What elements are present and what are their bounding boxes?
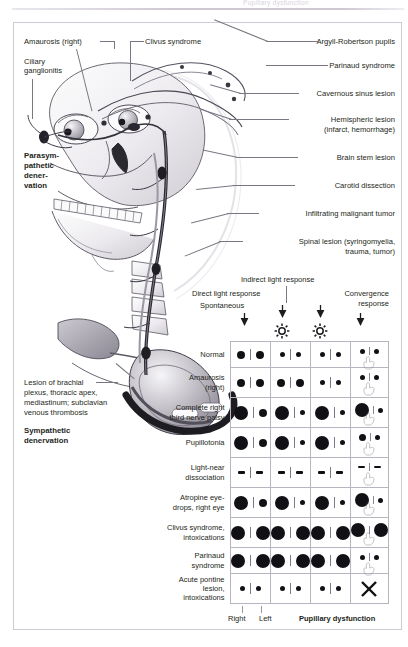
- table-cell: [230, 488, 270, 518]
- pupil-marker: [234, 496, 248, 510]
- row-label-line: (right): [166, 383, 225, 392]
- table-row: Pupillotonia: [166, 428, 388, 458]
- pupil-marker: [378, 498, 383, 503]
- cell-divider: [290, 349, 291, 360]
- label-parasympathetic-l1: Parasym-: [24, 151, 59, 160]
- table-cell: [350, 342, 388, 368]
- cell-divider: [253, 407, 254, 418]
- table-cell: [310, 518, 350, 548]
- pointing-finger-icon: [363, 472, 375, 486]
- cell-divider: [250, 583, 251, 594]
- cell-divider: [290, 527, 291, 538]
- cross-no-response-icon: [360, 580, 378, 598]
- footer-right-label: Right: [228, 614, 246, 623]
- table-cell: [270, 488, 310, 518]
- leader-amaurosis-v: [114, 41, 115, 49]
- cell-divider: [290, 555, 291, 566]
- cell-divider: [250, 349, 251, 360]
- pupil-marker: [315, 406, 329, 420]
- table-row: Light-neardissociation: [166, 458, 388, 488]
- pupil-marker: [320, 586, 325, 591]
- pupil-marker: [275, 406, 289, 420]
- pupil-marker: [336, 554, 350, 568]
- table-cell: [270, 368, 310, 398]
- pupil-marker: [275, 496, 289, 510]
- pupil-marker: [336, 586, 341, 591]
- table-cell: [230, 548, 270, 574]
- pupil-marker: [374, 555, 379, 560]
- pupil-marker: [378, 408, 383, 413]
- label-convergence-l1: Convergence: [314, 289, 389, 298]
- convergence-cell: [351, 368, 388, 397]
- pupil-pair: [231, 518, 270, 547]
- table-row: Parinaud syndrome: [166, 548, 388, 574]
- pupil-marker: [256, 526, 270, 540]
- pupil-pair: [271, 518, 310, 547]
- convergence-cell: [351, 428, 388, 457]
- cell-divider: [250, 377, 251, 388]
- pupil-pair: [271, 368, 310, 397]
- pupil-marker: [296, 586, 301, 591]
- cell-divider: [330, 527, 331, 538]
- cell-divider: [250, 467, 251, 478]
- pupil-marker: [234, 406, 248, 420]
- cell-divider: [369, 347, 370, 355]
- footer-tick-right: [242, 606, 243, 613]
- row-label: Acute pontinelesion, intoxications: [166, 574, 230, 604]
- row-label: Complete rightthird nerve palsy: [166, 398, 230, 428]
- leader-brachial: [96, 382, 118, 383]
- label-direct-light-response: Direct light response: [192, 289, 260, 298]
- pupil-marker: [256, 554, 270, 568]
- pupillary-dysfunction-table: NormalAmaurosis(right)Complete rightthir…: [166, 341, 389, 604]
- table-cell: [230, 428, 270, 458]
- pupil-pair: [231, 488, 270, 517]
- pupil-dash: [336, 471, 343, 474]
- pupil-marker: [336, 352, 341, 357]
- pupil-pair: [271, 428, 310, 457]
- pupil-pair: [271, 458, 310, 487]
- leader-clivus: [130, 41, 144, 42]
- table-cell: [310, 488, 350, 518]
- row-label-line: Acute pontine: [166, 575, 225, 584]
- pupil-marker: [275, 436, 289, 450]
- pupil-marker: [259, 409, 267, 417]
- row-label-line: Complete right: [166, 403, 225, 412]
- pupil-marker: [271, 526, 285, 540]
- pupil-pair: [231, 342, 270, 367]
- pupil-marker: [359, 434, 366, 441]
- label-ciliary-ganglionitis-l1: Ciliary: [24, 57, 45, 66]
- cell-divider: [250, 555, 251, 566]
- pupil-marker: [231, 526, 245, 540]
- arrow-down-icon: [316, 305, 325, 319]
- leader-tumor: [227, 213, 259, 214]
- convergence-cell: [351, 398, 388, 427]
- cell-divider: [330, 555, 331, 566]
- cell-divider: [330, 583, 331, 594]
- pupil-marker: [374, 375, 379, 380]
- pupil-pair: [311, 518, 350, 547]
- pupil-marker: [259, 439, 267, 447]
- convergence-cell: [351, 488, 388, 517]
- table-cell: [310, 574, 350, 604]
- pupil-marker: [300, 410, 305, 415]
- row-label-line: dissociation: [166, 473, 225, 482]
- leader-indirect: [286, 286, 287, 303]
- row-label: Pupillotonia: [166, 428, 230, 458]
- table-cell: [350, 428, 388, 458]
- pupil-pair: [231, 368, 270, 397]
- footer-left-label: Left: [259, 614, 272, 623]
- cell-divider: [253, 437, 254, 448]
- pupil-marker: [259, 499, 267, 507]
- leader-brainstem: [236, 157, 298, 158]
- table-cell: [350, 574, 388, 604]
- label-sympathetic-l2: denervation: [24, 436, 68, 445]
- table-cell: [270, 548, 310, 574]
- label-spinal-lesion-l1: Spinal lesion (syringomyelia,: [299, 237, 395, 246]
- label-brachial-l1: Lesion of brachial: [24, 378, 84, 387]
- label-brachial-l2: plexus, thoracic apex,: [24, 388, 97, 397]
- pupil-marker: [375, 435, 380, 440]
- table-cell: [350, 488, 388, 518]
- pupil-marker: [360, 375, 365, 380]
- pupil-marker: [234, 436, 248, 450]
- row-label: Amaurosis(right): [166, 368, 230, 398]
